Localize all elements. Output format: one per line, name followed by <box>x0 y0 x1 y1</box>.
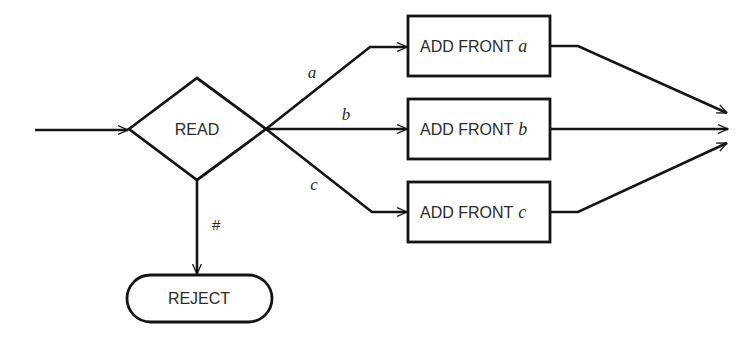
edge-label-a: a <box>308 63 317 82</box>
flowchart-canvas: READ a b c ADD FRONTa ADD FRONTb ADD FRO… <box>0 0 756 344</box>
edge-c: c <box>266 129 407 212</box>
process-add-front-a: ADD FRONTa <box>408 16 550 76</box>
exit-arrow-a <box>551 46 727 113</box>
process-a-var: a <box>518 36 527 56</box>
edge-a: a <box>266 47 407 129</box>
svg-text:ADD FRONTa: ADD FRONTa <box>420 36 527 56</box>
edge-b: b <box>266 105 407 129</box>
process-add-front-b: ADD FRONTb <box>408 99 550 159</box>
decision-read-label: READ <box>175 121 219 138</box>
svg-text:ADD FRONTc: ADD FRONTc <box>420 202 526 222</box>
svg-text:ADD FRONTb: ADD FRONTb <box>420 119 527 139</box>
edge-label-reject: # <box>212 216 221 233</box>
decision-read: READ <box>129 78 266 180</box>
terminal-reject: REJECT <box>127 275 272 322</box>
process-c-var: c <box>518 202 526 222</box>
process-c-prefix: ADD FRONT <box>420 204 514 221</box>
exit-arrow-c <box>551 143 727 212</box>
process-add-front-c: ADD FRONTc <box>408 182 550 242</box>
process-b-var: b <box>518 119 527 139</box>
process-a-prefix: ADD FRONT <box>420 38 514 55</box>
edge-label-c: c <box>310 175 318 194</box>
terminal-reject-label: REJECT <box>168 290 230 307</box>
edge-reject: # <box>197 180 221 274</box>
process-b-prefix: ADD FRONT <box>420 121 514 138</box>
edge-label-b: b <box>342 105 351 124</box>
